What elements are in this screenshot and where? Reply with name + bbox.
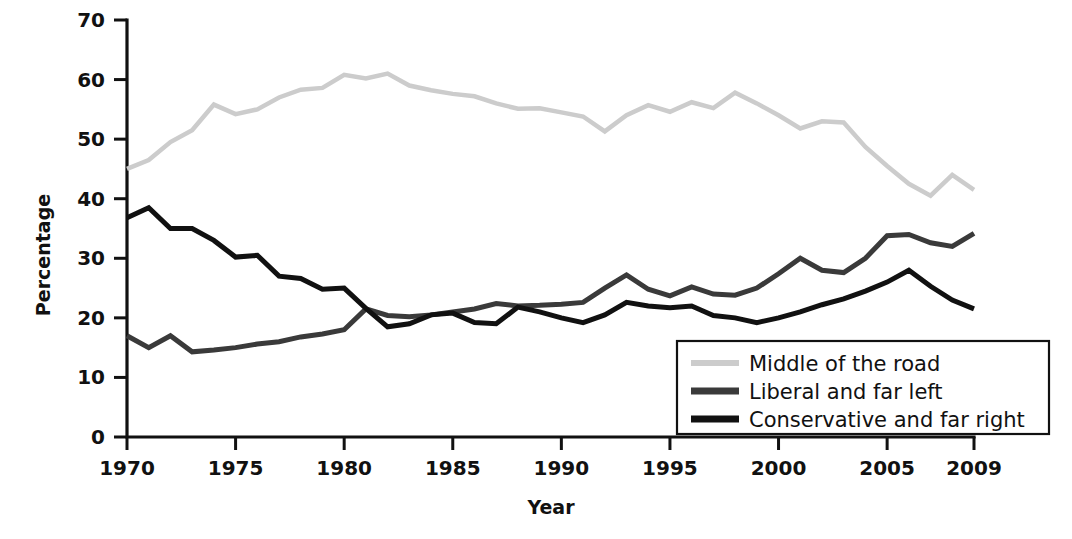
y-tick-label: 60 (77, 68, 105, 92)
line-chart: 0102030405060701970197519801985199019952… (0, 0, 1072, 539)
data-series (127, 74, 974, 352)
series-line-middle-of-the-road (127, 74, 974, 196)
legend-label: Liberal and far left (749, 380, 943, 404)
x-tick-label: 2000 (751, 456, 807, 480)
chart-legend: Middle of the roadLiberal and far leftCo… (677, 341, 1049, 434)
y-tick-label: 50 (77, 127, 105, 151)
y-axis-label: Percentage (32, 194, 54, 316)
y-tick-label: 20 (77, 306, 105, 330)
x-tick-label: 2005 (859, 456, 915, 480)
y-tick-label: 40 (77, 187, 105, 211)
legend-label: Conservative and far right (749, 408, 1025, 432)
x-tick-label: 1985 (425, 456, 481, 480)
x-tick-label: 1990 (534, 456, 590, 480)
x-tick-label: 1975 (208, 456, 264, 480)
series-line-liberal-and-far-left (127, 233, 974, 352)
x-axis-label: Year (526, 496, 575, 518)
x-tick-label: 1970 (99, 456, 155, 480)
x-tick-label: 2009 (946, 456, 1002, 480)
y-tick-label: 10 (77, 365, 105, 389)
y-tick-label: 70 (77, 8, 105, 32)
legend-label: Middle of the road (749, 352, 940, 376)
x-tick-label: 1980 (316, 456, 372, 480)
series-line-conservative-and-far-right (127, 208, 974, 327)
chart-svg: 0102030405060701970197519801985199019952… (0, 0, 1072, 539)
y-tick-label: 30 (77, 246, 105, 270)
y-tick-label: 0 (91, 425, 105, 449)
x-tick-label: 1995 (642, 456, 698, 480)
